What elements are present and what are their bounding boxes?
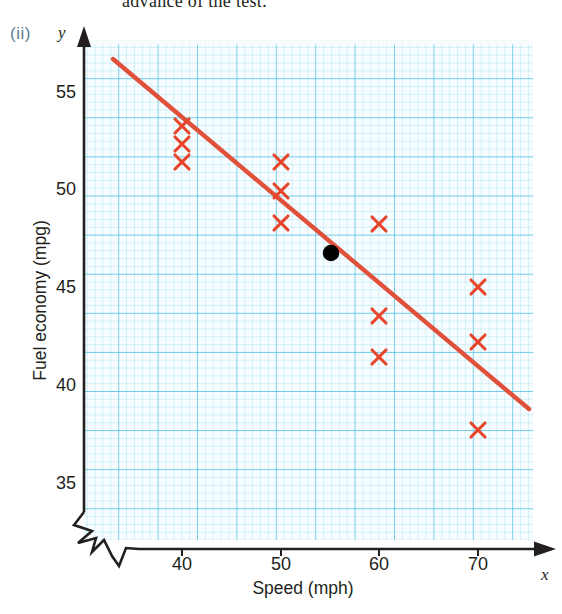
x-axis-arrowhead xyxy=(534,542,556,557)
mean-point-marker xyxy=(323,245,339,261)
y-axis-arrowhead xyxy=(77,26,91,47)
grid-background xyxy=(84,40,544,555)
scatter-plot-figure: advance of the test. (ii) y x Fuel econo… xyxy=(0,0,562,614)
plot-canvas xyxy=(0,0,562,614)
